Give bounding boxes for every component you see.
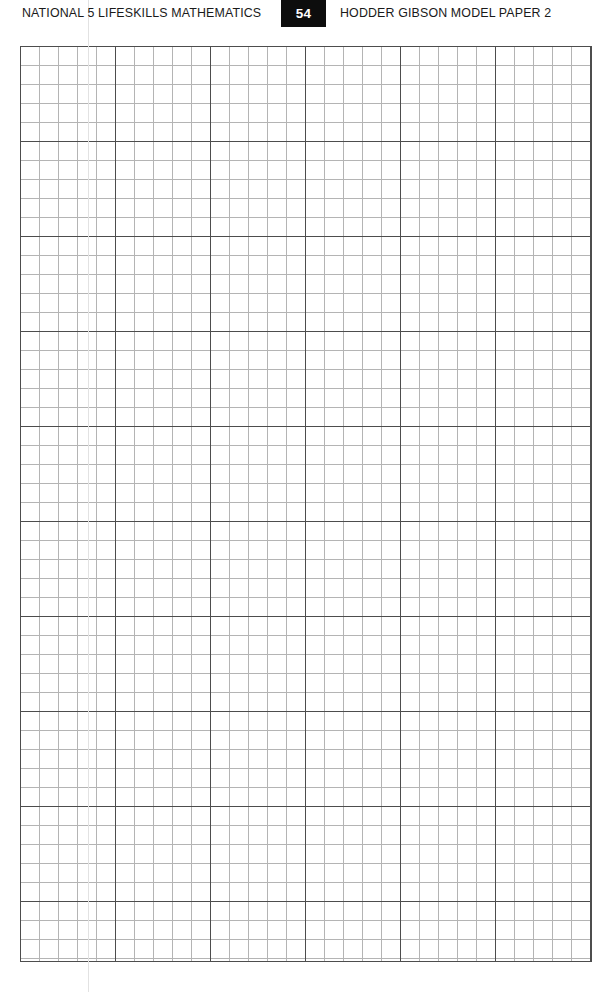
graph-paper-grid [20, 46, 592, 962]
header-left-title: NATIONAL 5 LIFESKILLS MATHEMATICS [22, 6, 261, 20]
page-number-label: 54 [296, 7, 312, 21]
page-number-badge: 54 [281, 0, 326, 27]
header-right-title: HODDER GIBSON MODEL PAPER 2 [340, 6, 551, 20]
running-header: NATIONAL 5 LIFESKILLS MATHEMATICS 54 HOD… [0, 0, 615, 28]
document-page: NATIONAL 5 LIFESKILLS MATHEMATICS 54 HOD… [0, 0, 615, 992]
